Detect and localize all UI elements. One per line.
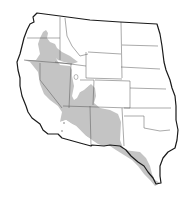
range-map: [0, 0, 195, 197]
great-salt-lake: [74, 75, 78, 80]
occurrence-dot: [61, 130, 63, 132]
occurrence-dot: [63, 122, 65, 124]
